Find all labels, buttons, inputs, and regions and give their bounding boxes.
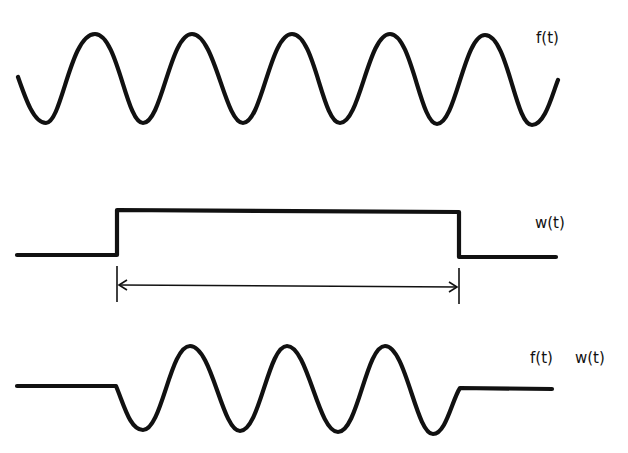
sinusoid-curve	[18, 34, 558, 125]
span-arrow-line	[119, 285, 457, 287]
signal-panel: f(t)	[18, 29, 559, 125]
product-label-f: f(t)	[530, 349, 553, 367]
window-panel: w(t)	[17, 210, 565, 304]
window-curve	[17, 210, 556, 257]
windowed-sinusoid-curve	[17, 346, 552, 434]
window-label: w(t)	[535, 214, 565, 232]
product-label-w: w(t)	[575, 349, 605, 367]
product-panel: f(t) w(t)	[17, 346, 605, 434]
signal-label: f(t)	[536, 29, 559, 47]
windowing-diagram: f(t) w(t) f(t) w(t)	[0, 0, 628, 453]
